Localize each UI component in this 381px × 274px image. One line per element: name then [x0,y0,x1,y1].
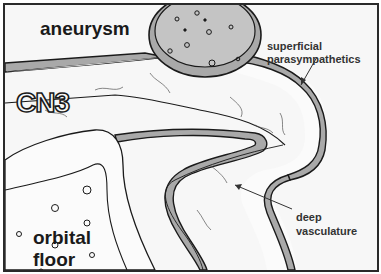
label-cn3: CN3 [16,89,69,117]
label-superficial-parasympathetics: superficial parasympathetics [267,40,361,66]
label-superficial-line1: superficial [267,40,361,53]
superficial-band-left [5,53,165,72]
label-deep-vasculature: deep vasculature [296,210,357,238]
diagram-frame: aneurysm CN3 superficial parasympathetic… [3,3,379,272]
label-deep-line1: deep [296,210,357,224]
label-orbital-floor: orbital floor [33,227,91,271]
label-orbital-line2: floor [33,249,91,271]
label-superficial-line2: parasympathetics [267,53,361,66]
label-aneurysm: aneurysm [40,19,130,38]
label-deep-line2: vasculature [296,224,357,238]
label-orbital-line1: orbital [33,227,91,249]
